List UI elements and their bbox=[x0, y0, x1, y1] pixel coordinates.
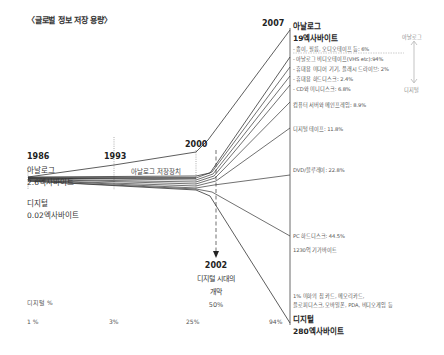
left-digital-name: 디지털 bbox=[27, 197, 48, 208]
left-digital-value: 0.02엑사바이트 bbox=[27, 209, 79, 220]
line-series-2 bbox=[28, 76, 290, 180]
series-label-pc-hdd: PC 하드디스크: 44.5% bbox=[293, 232, 345, 239]
digital-percent-label: 디지털 % bbox=[27, 298, 53, 307]
series-label-paper: - 종이, 필름, 오디오테이프 등: 6% bbox=[293, 45, 369, 52]
line-analog-top bbox=[28, 30, 290, 177]
line-series-1 bbox=[28, 67, 290, 178]
year-1993: 1993 bbox=[104, 152, 126, 161]
milestone-line2: 개막 bbox=[186, 286, 246, 296]
legend-digital: 디지털 bbox=[404, 86, 419, 93]
legend-analog: 아날로그 bbox=[402, 33, 422, 40]
year-1986: 1986 bbox=[27, 152, 49, 161]
tick-2000: 25% bbox=[186, 318, 199, 325]
milestone-line1: 디지털 시대의 bbox=[186, 273, 246, 283]
series-label-cd: - CD와 미니디스크: 6.8% bbox=[293, 85, 351, 92]
year-2007: 2007 bbox=[262, 19, 284, 28]
series-label-other-1: 1% 미하의 칩 카드, 메모리카드, bbox=[293, 292, 364, 299]
series-label-flash: - 휴대용 미디어 기기, 플래시 드라이브: 2% bbox=[293, 65, 389, 72]
year-2000: 2000 bbox=[185, 140, 207, 149]
arrow-down-icon bbox=[213, 251, 219, 258]
series-label-vhs: - 아날로그 비디오테이프(VHS etc):94% bbox=[293, 55, 383, 62]
series-label-servers: 컴퓨터 서버와 메인프레임: 8.9% bbox=[293, 101, 366, 108]
series-label-pc-hdd-gb: 1230억 기가바이트 bbox=[293, 246, 337, 253]
series-label-dvd: DVD/블루레이: 22.8% bbox=[293, 166, 345, 173]
right-analog-name: 아날로그 bbox=[293, 20, 321, 31]
left-analog-value: 2.6엑사바이트 bbox=[27, 176, 74, 187]
line-analog-base bbox=[28, 57, 290, 177]
tick-1986: 1 % bbox=[27, 318, 38, 325]
series-label-other-2: 플로피디스크, 모바일폰, PDA, 비디오게임 등 bbox=[293, 301, 393, 308]
line-series-8 bbox=[28, 181, 290, 323]
right-digital-value: 280엑사바이트 bbox=[293, 325, 344, 336]
milestone-percent: 50% bbox=[186, 301, 246, 309]
right-analog-value: 19엑사바이트 bbox=[293, 32, 338, 43]
tick-2007: 94% bbox=[269, 318, 282, 325]
milestone-year: 2002 bbox=[186, 261, 246, 270]
milestone-block: 2002 디지털 시대의 개막 50% bbox=[186, 261, 246, 309]
tick-1993: 3% bbox=[109, 318, 119, 325]
series-label-digital-tape: 디지털 테이프: 11.8% bbox=[293, 125, 343, 132]
series-label-portable-hdd: - 휴대용 하드디스크: 2.4% bbox=[293, 75, 353, 82]
right-digital-name: 디지털 bbox=[293, 313, 314, 324]
left-analog-name: 아날로그 bbox=[27, 164, 55, 175]
analog-storage-label: 아날로그 저장장치 bbox=[131, 166, 181, 176]
chart-title: 〈글로벌 정보 저장 용량〉 bbox=[27, 14, 112, 25]
